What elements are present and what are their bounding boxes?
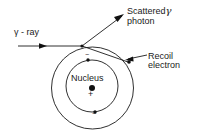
electron-bottom-charge-label: − [92, 110, 96, 117]
scattered-photon-label-line2: photon [127, 17, 172, 26]
electron-top-charge-label: − [85, 51, 89, 58]
nucleus-charge-label: + [88, 90, 93, 99]
recoil-electron-leader-arrowhead [125, 57, 134, 62]
scattered-photon-label-line1: Scattered [127, 6, 166, 16]
scattered-photon-label: Scatteredγphoton [127, 6, 172, 26]
scattered-photon-line [82, 16, 122, 46]
incident-gamma-ray-arrowhead [39, 43, 47, 49]
nucleus-label: Nucleus [71, 74, 104, 83]
recoil-electron-label-line2: electron [148, 61, 180, 70]
scattered-photon-gamma-symbol: γ [166, 5, 172, 16]
compton-scattering-diagram: γ - ray Scatteredγphoton Recoilelectron … [0, 0, 199, 139]
recoil-electron-label: Recoilelectron [148, 52, 180, 71]
incident-gamma-ray-label: γ - ray [14, 28, 39, 37]
scattering-point [80, 44, 83, 47]
electron-top-dot [86, 58, 89, 61]
